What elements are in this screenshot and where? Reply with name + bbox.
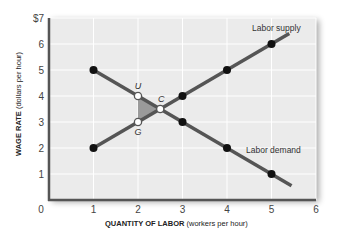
x-tick-label: 3 (180, 204, 186, 215)
data-point (268, 170, 276, 178)
y-tick-label: 1 (38, 169, 44, 180)
data-point (268, 40, 276, 48)
y-axis-title: WAGE RATE (dollars per hour) (14, 51, 23, 156)
x-axis-title-bold: QUANTITY OF LABOR (105, 219, 187, 228)
open-point-c (157, 105, 164, 112)
x-tick-label: 0 (38, 204, 44, 215)
point-label-c: C (158, 94, 165, 104)
y-tick-label: 4 (38, 91, 44, 102)
point-label-u: U (135, 81, 142, 91)
data-point (179, 118, 187, 126)
labor-market-chart: 0123456123456$7 UCG Labor supply Labor d… (0, 0, 338, 237)
y-tick-label: 6 (38, 39, 44, 50)
x-tick-label: 5 (269, 204, 275, 215)
y-tick-label: 3 (38, 117, 44, 128)
x-tick-label: 4 (224, 204, 230, 215)
x-tick-label: 2 (135, 204, 141, 215)
y-axis-title-bold: WAGE RATE (14, 109, 23, 156)
data-point (223, 66, 231, 74)
x-axis-title-unit: (workers per hour) (187, 219, 249, 228)
y-axis-title-unit: (dollars per hour) (14, 51, 23, 109)
point-label-g: G (134, 127, 141, 137)
open-point-g (134, 118, 141, 125)
open-point-u (134, 92, 141, 99)
data-point (179, 92, 187, 100)
data-point (223, 144, 231, 152)
x-tick-label: 1 (91, 204, 97, 215)
x-axis-title: QUANTITY OF LABOR (workers per hour) (105, 219, 248, 228)
y-tick-label: 5 (38, 65, 44, 76)
data-point (90, 66, 98, 74)
y-tick-label: $7 (33, 13, 45, 24)
y-tick-label: 2 (38, 143, 44, 154)
labor-supply-label: Labor supply (252, 23, 301, 33)
labor-demand-label: Labor demand (246, 145, 301, 155)
x-tick-label: 6 (313, 204, 319, 215)
data-point (90, 144, 98, 152)
